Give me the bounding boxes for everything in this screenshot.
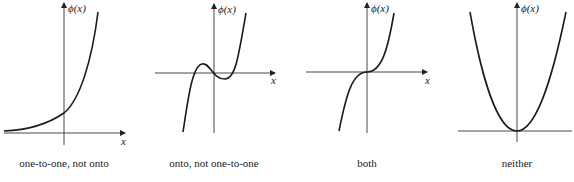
function-curve	[4, 12, 98, 131]
plot-panel-parabola: ϕ(x)	[458, 2, 572, 142]
caption-neither: neither	[502, 157, 533, 169]
plot-panel-exp: ϕ(x)x	[4, 2, 126, 147]
x-axis-label: x	[120, 135, 126, 147]
x-axis-label: x	[424, 74, 430, 86]
y-axis-label: ϕ(x)	[521, 2, 539, 15]
caption-onto-not-one-to-one: onto, not one-to-one	[169, 157, 259, 169]
plot-panel-cubic-wiggle: ϕ(x)x	[155, 3, 276, 133]
caption-both: both	[357, 157, 377, 169]
function-curve	[183, 13, 246, 132]
plot-panel-cubic: ϕ(x)x	[306, 2, 430, 133]
function-types-figure: ϕ(x)xϕ(x)xϕ(x)xϕ(x) one-to-one, not onto…	[0, 0, 574, 182]
y-axis-label: ϕ(x)	[371, 2, 389, 15]
function-curve	[470, 12, 566, 131]
y-axis-label: ϕ(x)	[218, 3, 236, 16]
y-axis-label: ϕ(x)	[68, 2, 86, 15]
plots-canvas: ϕ(x)xϕ(x)xϕ(x)xϕ(x)	[0, 0, 574, 182]
x-axis-label: x	[270, 74, 276, 86]
caption-one-to-one-not-onto: one-to-one, not onto	[19, 157, 109, 169]
